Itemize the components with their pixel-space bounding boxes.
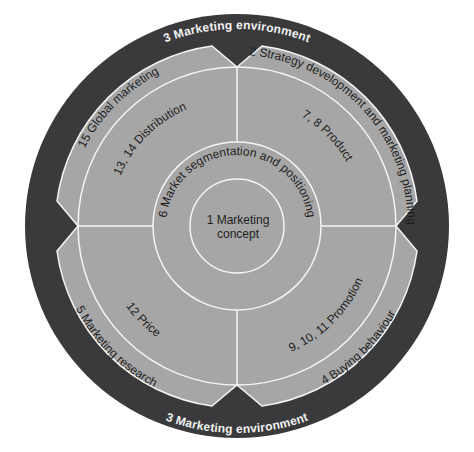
- marketing-wheel-diagram: 3 Marketing environment 3 Marketing envi…: [0, 0, 474, 452]
- core-label-line2: concept: [217, 227, 260, 241]
- core-label-line1: 1 Marketing: [207, 213, 270, 227]
